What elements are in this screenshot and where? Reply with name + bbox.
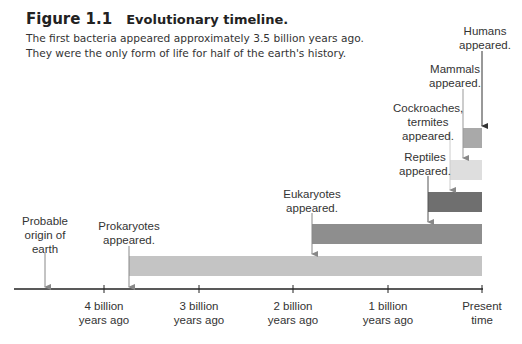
event-label-prokaryotes: Prokaryotesappeared. (98, 219, 160, 247)
tick-label-4b: 4 billionyears ago (69, 299, 139, 327)
tick-label-present: Presenttime (452, 299, 512, 327)
event-label-humans: Humansappeared. (455, 24, 515, 52)
event-label-earth-origin: Probableorigin ofearth (20, 214, 70, 256)
tick-label-1b: 1 billionyears ago (353, 299, 423, 327)
event-label-eukaryotes: Eukaryotesappeared. (280, 187, 344, 215)
tick-label-2b: 2 billionyears ago (258, 299, 328, 327)
event-label-cockroaches: Cockroaches,termitesappeared. (393, 101, 463, 143)
tick-label-3b: 3 billionyears ago (164, 299, 234, 327)
event-label-mammals: Mammalsappeared. (420, 62, 490, 90)
event-label-reptiles: Reptilesappeared. (395, 150, 455, 178)
